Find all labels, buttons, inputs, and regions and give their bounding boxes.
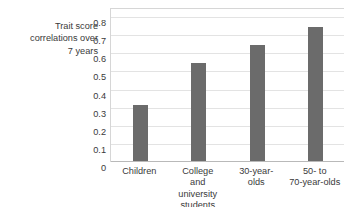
x-axis-category-label: 50- to70-year-olds [286, 166, 344, 189]
y-axis-tick-label: 0.3 [82, 110, 106, 119]
bar[interactable] [250, 45, 265, 161]
bar-slot [111, 8, 170, 161]
x-axis-category-label: Children [110, 166, 169, 177]
y-axis-tick-label: 0.6 [82, 56, 106, 65]
y-axis-tick-label: 0 [82, 164, 106, 173]
clipped-top-text [120, 0, 230, 4]
y-axis-tick-label: 0.1 [82, 146, 106, 155]
x-axis-category-label: 30-year-olds [227, 166, 286, 189]
y-axis-tick-label: 0.4 [82, 92, 106, 101]
y-axis-tick-label: 0.8 [82, 19, 106, 28]
x-axis-category-label-line: College [169, 166, 228, 177]
bar[interactable] [133, 105, 148, 161]
x-axis-category-label-line: and [169, 177, 228, 188]
bar[interactable] [191, 63, 206, 161]
x-axis-line [111, 161, 344, 162]
x-axis-category-label-line: students [169, 200, 228, 207]
y-axis-tick-label: 0.5 [82, 74, 106, 83]
x-axis-category-label-line: 30-year- [227, 166, 286, 177]
x-axis-category-label-line: Children [110, 166, 169, 177]
x-axis-category-label-line: olds [227, 177, 286, 188]
x-axis-category-labels: ChildrenCollegeanduniversitystudents30-y… [110, 166, 344, 207]
bar-series [111, 9, 344, 162]
y-axis-tick-label: 0.2 [82, 128, 106, 137]
plot-area [110, 8, 344, 162]
bar[interactable] [308, 27, 323, 161]
bar-slot [170, 8, 229, 161]
x-axis-category-label-line: 50- to [286, 166, 344, 177]
x-axis-category-label: Collegeanduniversitystudents [169, 166, 228, 207]
bar-chart-figure: Trait score correlations over 7 years 0.… [0, 0, 344, 207]
x-axis-category-label-line: 70-year-olds [286, 177, 344, 188]
y-axis-tick-labels: 0.80.70.60.50.40.30.20.10 [82, 8, 106, 162]
bar-slot [228, 8, 287, 161]
x-axis-category-label-line: university [169, 189, 228, 200]
y-axis-tick-label: 0.7 [82, 38, 106, 47]
bar-slot [287, 8, 344, 161]
